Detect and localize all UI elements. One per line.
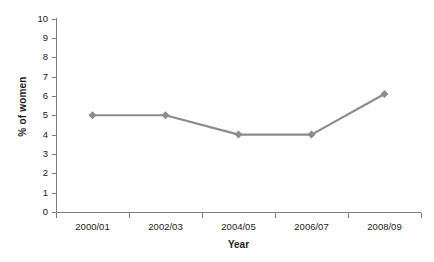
data-point-marker xyxy=(162,111,170,119)
line-chart-figure: % of women 012345678910 2000/012002/0320… xyxy=(0,0,434,262)
data-point-marker xyxy=(89,111,97,119)
data-point-marker xyxy=(235,131,243,139)
plot-area xyxy=(0,0,434,262)
x-axis-title: Year xyxy=(56,239,421,250)
data-series-line xyxy=(93,94,385,135)
